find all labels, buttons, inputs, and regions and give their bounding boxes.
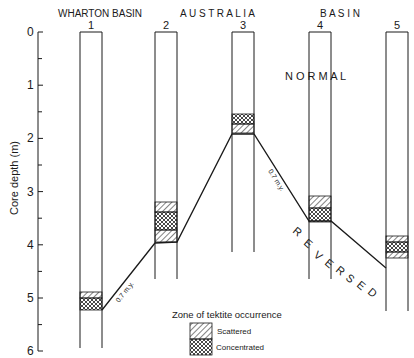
legend-title: Zone of tektite occurrence (172, 309, 282, 320)
scattered-zone (155, 202, 177, 212)
legend: Zone of tektite occurrence Scattered Con… (172, 309, 282, 355)
core-1-label: 1 (88, 19, 94, 31)
tick-1: 1 (27, 78, 34, 92)
core-2-label: 2 (163, 19, 169, 31)
scattered-zone (232, 124, 254, 133)
scattered-zone (80, 292, 102, 298)
tick-2: 2 (27, 131, 34, 145)
correlation-line (102, 134, 386, 310)
svg-text:V: V (312, 248, 326, 262)
concentrated-zone (155, 212, 177, 230)
core-5-label: 5 (394, 19, 400, 31)
scattered-zone (155, 230, 177, 242)
tektite-core-diagram: WHARTON BASIN A U S T R A L I A B A S I … (0, 0, 414, 358)
axis-title: Core depth (m) (8, 141, 20, 215)
wharton-basin-label: WHARTON BASIN (58, 8, 142, 19)
concentrated-zone (386, 242, 408, 252)
svg-text:R: R (334, 263, 348, 277)
tick-3: 3 (27, 185, 34, 199)
svg-text:R: R (291, 224, 305, 238)
svg-text:E: E (355, 278, 368, 292)
basin-label: B A S I N (320, 8, 360, 19)
svg-text:D: D (366, 285, 380, 299)
depth-axis: 0 1 2 3 4 5 6 Core depth (m) (8, 25, 43, 358)
legend-concentrated-swatch (190, 339, 212, 355)
tick-5: 5 (27, 291, 34, 305)
scattered-zone (309, 196, 331, 208)
age-label-1: 0.7 m.y. (114, 280, 135, 304)
svg-text:S: S (344, 271, 357, 285)
tick-6: 6 (27, 344, 34, 358)
core-3-label: 3 (240, 19, 246, 31)
concentrated-zone (309, 208, 331, 222)
concentrated-zone (232, 114, 254, 124)
legend-scattered-swatch (190, 323, 212, 339)
scattered-zone (386, 236, 408, 242)
concentrated-zone (80, 298, 102, 310)
legend-scattered-label: Scattered (217, 327, 251, 336)
core-5 (386, 32, 408, 311)
reversed-label: R E V E R S E D (291, 224, 380, 299)
core-3 (232, 32, 254, 252)
tick-0: 0 (27, 25, 34, 39)
tick-4: 4 (27, 238, 34, 252)
australia-label: A U S T R A L I A (180, 8, 255, 19)
legend-concentrated-label: Concentrated (216, 343, 264, 352)
svg-text:E: E (302, 236, 315, 250)
core-1 (80, 32, 102, 348)
core-4-label: 4 (317, 19, 323, 31)
scattered-zone (386, 252, 408, 258)
normal-label: N O R M A L (285, 70, 346, 82)
svg-text:E: E (323, 256, 336, 270)
